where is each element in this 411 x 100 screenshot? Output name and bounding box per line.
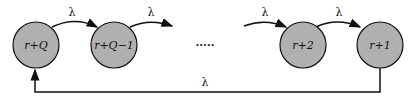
state-node-r-plus-2: r+2 bbox=[280, 22, 326, 68]
svg-text:r+2: r+2 bbox=[292, 39, 313, 52]
state-node-r-plus-Q: r+Q bbox=[13, 22, 59, 68]
svg-text:r+Q−1: r+Q−1 bbox=[94, 39, 134, 52]
svg-text:r+1: r+1 bbox=[369, 39, 390, 52]
edge-n1-n2 bbox=[52, 22, 97, 28]
svg-text:r+Q: r+Q bbox=[24, 39, 48, 52]
edge-ellipsis-n3 bbox=[244, 22, 286, 27]
state-diagram: λ λ λ λ λ r+Q r+Q−1 ····· r+2 r+1 bbox=[0, 0, 411, 100]
edge-label: λ bbox=[148, 6, 155, 19]
edge-n2-ellipsis bbox=[130, 22, 172, 27]
state-node-r-plus-Q-minus-1: r+Q−1 bbox=[91, 22, 137, 68]
edge-label: λ bbox=[262, 6, 269, 19]
edge-label: λ bbox=[336, 6, 343, 19]
edge-label: λ bbox=[202, 76, 209, 89]
edge-label: λ bbox=[69, 6, 76, 19]
ellipsis: ····· bbox=[195, 39, 214, 52]
edge-n3-n4 bbox=[316, 22, 360, 27]
state-node-r-plus-1: r+1 bbox=[357, 22, 403, 68]
